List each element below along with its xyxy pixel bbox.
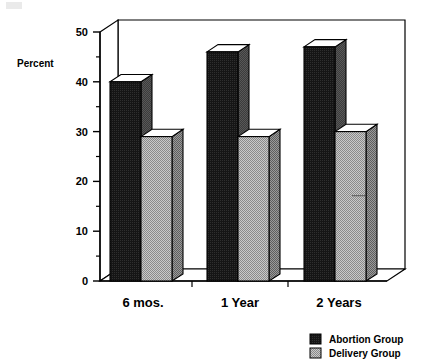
legend: Abortion Group Delivery Group [310, 334, 403, 359]
bar-delivery-6mos [141, 129, 183, 281]
x-axis-ticks [192, 281, 288, 287]
y-tick-label-0: 0 [82, 275, 88, 287]
legend-item-abortion-group[interactable]: Abortion Group [310, 334, 403, 345]
legend-item-delivery-group[interactable]: Delivery Group [310, 348, 401, 359]
y-tick-label-30: 30 [76, 126, 88, 138]
legend-label-delivery-group: Delivery Group [329, 348, 401, 359]
x-category-label-0: 6 mos. [122, 295, 163, 310]
gray-swatch-icon [310, 348, 321, 358]
y-axis-title: Percent [17, 58, 54, 69]
chart-canvas: 0 10 20 30 40 50 Percent [0, 0, 421, 361]
scan-speck [352, 195, 365, 196]
y-tick-label-10: 10 [76, 225, 88, 237]
y-tick-label-50: 50 [76, 26, 88, 38]
y-tick-label-20: 20 [76, 175, 88, 187]
x-category-label-2: 2 Years [316, 295, 361, 310]
black-swatch-icon [310, 334, 321, 344]
legend-label-abortion-group: Abortion Group [329, 334, 403, 345]
bar-chart: 0 10 20 30 40 50 Percent [0, 0, 421, 361]
x-category-label-1: 1 Year [221, 295, 259, 310]
y-tick-label-40: 40 [76, 76, 88, 88]
bar-delivery-1year [238, 129, 280, 281]
bar-delivery-2years [335, 124, 377, 281]
